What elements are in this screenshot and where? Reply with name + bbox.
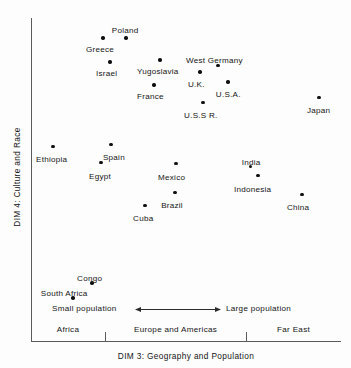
data-point-label: U.K. — [188, 81, 205, 89]
data-point-label: Spain — [103, 154, 125, 162]
data-point — [201, 101, 204, 104]
data-point — [256, 174, 259, 177]
scatter-plot-figure: PolandGreeceIsraelYugoslaviaFranceWest G… — [0, 0, 351, 368]
data-point — [158, 58, 161, 61]
data-point — [99, 161, 102, 164]
data-point-label: Mexico — [158, 174, 185, 182]
data-point-label: U.S.A. — [216, 91, 241, 99]
data-point-label: France — [137, 93, 164, 101]
data-point — [300, 193, 303, 196]
data-point-label: Poland — [112, 27, 139, 35]
x-axis-line — [31, 341, 341, 342]
x-axis-title: DIM 3: Geography and Population — [31, 351, 341, 361]
data-point-label: Egypt — [89, 173, 111, 181]
data-point-label: South Africa — [41, 290, 88, 298]
data-point-label: Japan — [307, 107, 330, 115]
data-point — [124, 36, 127, 39]
data-point — [101, 36, 104, 39]
data-point-label: Cuba — [133, 215, 153, 223]
small-population-label: Small population — [52, 304, 117, 313]
data-point-label: West Germany — [186, 57, 243, 65]
y-axis-line — [31, 18, 32, 342]
data-point-label: China — [287, 204, 309, 212]
data-point-label: Ethiopia — [36, 156, 67, 164]
data-point — [317, 96, 320, 99]
data-point-label: Yugoslavia — [137, 68, 179, 76]
y-axis-title: DIM 4: Culture and Race — [12, 97, 22, 257]
x-axis-region-label: Far East — [246, 325, 341, 334]
x-axis-region-label: Europe and Americas — [105, 325, 246, 334]
data-point-label: Greece — [86, 46, 114, 54]
x-axis-region-label: Africa — [31, 325, 105, 334]
data-point-label: Israel — [96, 70, 117, 78]
data-point-label: Brazil — [161, 202, 183, 210]
data-point — [51, 145, 54, 148]
data-point-label: U.S.S R. — [184, 112, 217, 120]
data-point — [226, 80, 229, 83]
data-point-label: India — [242, 159, 261, 167]
data-point — [143, 204, 146, 207]
data-point — [173, 191, 176, 194]
population-double-arrow-icon — [135, 304, 221, 315]
data-point — [108, 60, 111, 63]
data-point — [174, 162, 177, 165]
large-population-label: Large population — [226, 304, 291, 313]
data-point-label: Indonesia — [234, 186, 271, 194]
data-point — [109, 143, 112, 146]
data-point-label: Congo — [77, 275, 102, 283]
data-point — [198, 70, 201, 73]
data-point — [152, 83, 155, 86]
